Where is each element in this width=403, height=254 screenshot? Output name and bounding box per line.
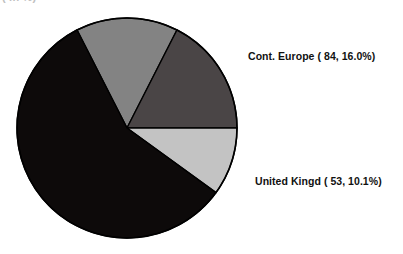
slice-label-united-kingdom: United Kingd ( 53, 10.1%) xyxy=(255,175,382,187)
pie-svg xyxy=(0,0,403,254)
pie-slices-group xyxy=(17,18,237,238)
slice-label-cont-europe: Cont. Europe ( 84, 16.0%) xyxy=(248,50,375,62)
pie-chart-figure: ( in %) Cont. Europe ( 84, 16.0%) United… xyxy=(0,0,403,254)
